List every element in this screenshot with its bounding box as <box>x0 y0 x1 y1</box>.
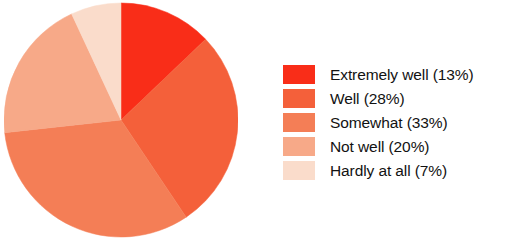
pie-slice-group <box>4 3 238 237</box>
legend-label: Extremely well (13%) <box>330 65 474 84</box>
legend-row: Somewhat (33%) <box>283 110 503 134</box>
pie-chart-graphic <box>4 2 238 238</box>
chart-legend: Extremely well (13%)Well (28%)Somewhat (… <box>283 62 503 182</box>
legend-label: Somewhat (33%) <box>330 113 447 132</box>
legend-row: Not well (20%) <box>283 134 503 158</box>
legend-row: Well (28%) <box>283 86 503 110</box>
legend-label: Not well (20%) <box>330 137 429 156</box>
legend-row: Extremely well (13%) <box>283 62 503 86</box>
legend-swatch-somewhat <box>283 113 315 132</box>
pie-svg <box>4 2 238 238</box>
legend-swatch-extremely-well <box>283 65 315 84</box>
legend-swatch-not-well <box>283 137 315 156</box>
legend-label: Hardly at all (7%) <box>330 161 447 180</box>
legend-swatch-well <box>283 89 315 108</box>
legend-label: Well (28%) <box>330 89 405 108</box>
legend-row: Hardly at all (7%) <box>283 158 503 182</box>
pie-chart-figure: Extremely well (13%)Well (28%)Somewhat (… <box>0 0 505 245</box>
legend-swatch-hardly-at-all <box>283 161 315 180</box>
